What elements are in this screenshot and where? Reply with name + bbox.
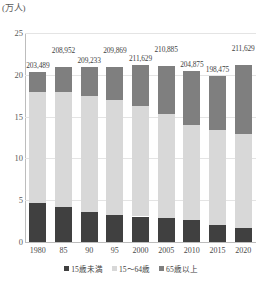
bar-value-label: 211,629 (232, 44, 255, 53)
bar-value-label: 209,233 (77, 56, 100, 65)
bar-value-label: 208,952 (52, 46, 75, 55)
bar-value-label: 204,875 (180, 60, 203, 69)
bar-column[interactable] (132, 65, 149, 242)
y-axis-tick-labels: 0510152025 (0, 0, 23, 284)
chart-legend: 15歳未満15〜64歳65歳以上 (0, 263, 262, 274)
bar-segment-children[interactable] (209, 225, 226, 242)
bar-segment-elderly[interactable] (81, 67, 98, 96)
bar-segment-working-age[interactable] (132, 106, 149, 216)
bar-segment-elderly[interactable] (29, 72, 46, 91)
legend-swatch-icon (64, 266, 69, 271)
x-axis-tick: 2020 (235, 246, 251, 255)
legend-item[interactable]: 15〜64歳 (112, 263, 150, 274)
y-axis-tick: 20 (1, 70, 23, 80)
legend-label: 15歳未満 (71, 263, 103, 274)
bar-segment-children[interactable] (106, 215, 123, 242)
bar-segment-working-age[interactable] (158, 114, 175, 218)
stacked-bar-chart: (万人) 0510152025 203,489208,952209,233209… (0, 0, 262, 284)
bar-segment-elderly[interactable] (158, 66, 175, 114)
bar-column[interactable] (29, 72, 46, 242)
bar-column[interactable] (55, 67, 72, 242)
bar-segment-working-age[interactable] (209, 130, 226, 225)
bar-column[interactable] (209, 76, 226, 242)
bar-value-label: 210,885 (154, 45, 177, 54)
bar-column[interactable] (106, 67, 123, 242)
bar-segment-children[interactable] (183, 220, 200, 242)
x-axis-tick: 90 (85, 246, 93, 255)
bar-segment-children[interactable] (29, 203, 46, 242)
x-axis-tick: 85 (60, 246, 68, 255)
bar-segment-working-age[interactable] (81, 96, 98, 213)
bar-segment-working-age[interactable] (235, 134, 252, 228)
legend-swatch-icon (112, 266, 117, 271)
bar-column[interactable] (81, 67, 98, 242)
y-axis-tick: 5 (1, 195, 23, 205)
y-axis-tick: 0 (1, 237, 23, 247)
legend-swatch-icon (159, 266, 164, 271)
bar-value-label: 203,489 (26, 61, 49, 70)
x-axis-tick: 95 (111, 246, 119, 255)
bar-segment-elderly[interactable] (55, 67, 72, 91)
bar-segment-children[interactable] (81, 212, 98, 242)
x-axis-tick: 1980 (30, 246, 46, 255)
legend-label: 15〜64歳 (119, 263, 150, 274)
legend-item[interactable]: 65歳以上 (159, 263, 198, 274)
bar-value-label: 198,475 (206, 65, 229, 74)
bar-column[interactable] (235, 65, 252, 242)
bar-column[interactable] (183, 71, 200, 242)
bar-segment-working-age[interactable] (106, 100, 123, 215)
bar-column[interactable] (158, 66, 175, 242)
bar-segment-elderly[interactable] (183, 71, 200, 125)
bar-segment-children[interactable] (55, 207, 72, 242)
y-axis-tick: 25 (1, 28, 23, 38)
bar-segment-children[interactable] (132, 217, 149, 242)
legend-label: 65歳以上 (166, 263, 198, 274)
bar-segment-elderly[interactable] (106, 67, 123, 100)
x-axis-tick: 2010 (184, 246, 200, 255)
bar-segment-elderly[interactable] (209, 76, 226, 131)
x-axis-tick: 2015 (210, 246, 226, 255)
legend-item[interactable]: 15歳未満 (64, 263, 103, 274)
x-axis-tick: 2005 (158, 246, 174, 255)
bar-segment-working-age[interactable] (183, 125, 200, 220)
bar-segment-elderly[interactable] (235, 65, 252, 134)
bar-value-label: 209,869 (103, 46, 126, 55)
bar-segment-working-age[interactable] (55, 92, 72, 208)
x-axis-line (25, 242, 256, 243)
bar-value-label: 211,629 (129, 54, 152, 63)
bar-segment-children[interactable] (235, 228, 252, 242)
y-axis-tick: 15 (1, 112, 23, 122)
x-axis-tick: 2000 (133, 246, 149, 255)
bar-segment-elderly[interactable] (132, 65, 149, 106)
y-axis-tick: 10 (1, 153, 23, 163)
bar-segment-children[interactable] (158, 218, 175, 242)
bar-segment-working-age[interactable] (29, 92, 46, 203)
